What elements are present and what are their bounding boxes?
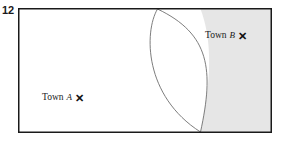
town-a-name: Town — [42, 92, 64, 103]
diagram-page: 12 Town A ✕ Town B ✕ — [0, 0, 281, 142]
town-a-cross-icon: ✕ — [75, 92, 84, 102]
town-b-cross-icon: ✕ — [238, 30, 247, 40]
diagram-frame — [18, 8, 272, 133]
town-b-id: B — [230, 30, 236, 41]
question-number: 12 — [2, 4, 14, 16]
town-b-label: Town B ✕ — [205, 30, 247, 41]
town-a-id: A — [67, 92, 73, 103]
shaded-region-nearer-town-b — [201, 9, 272, 132]
town-a-label: Town A ✕ — [42, 92, 84, 103]
diagram-canvas — [18, 8, 272, 133]
town-b-name: Town — [205, 30, 227, 41]
